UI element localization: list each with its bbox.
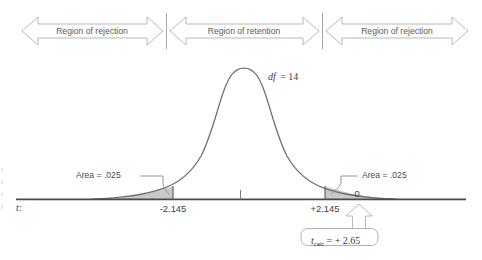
tick-label-negative-critical: -2.145	[148, 203, 198, 214]
left-area-annotation: Area = .025	[76, 170, 121, 180]
right-area-annotation: Area = .025	[362, 170, 407, 180]
calculated-t-callout: tcalc = + 2.65	[311, 231, 360, 248]
df-label-value: = 14	[280, 71, 298, 82]
right-rejection-label: Region of rejection	[361, 26, 433, 36]
tick-label-positive-critical: +2.145	[300, 203, 350, 214]
callout-subscript: calc	[314, 241, 324, 247]
left-rejection-label: Region of rejection	[56, 26, 128, 36]
scan-edge-artifacts	[1, 168, 3, 209]
retention-label: Region of retention	[208, 26, 281, 36]
t-distribution-curve	[92, 68, 396, 199]
t-distribution-figure: Region of rejection Region of retention …	[0, 0, 482, 260]
x-axis-label: t:	[16, 202, 22, 213]
df-label: df = 14	[268, 66, 298, 84]
tick-label-zero: 0	[342, 188, 372, 199]
df-label-symbol: df	[268, 71, 276, 82]
callout-value: = + 2.65	[324, 235, 360, 246]
